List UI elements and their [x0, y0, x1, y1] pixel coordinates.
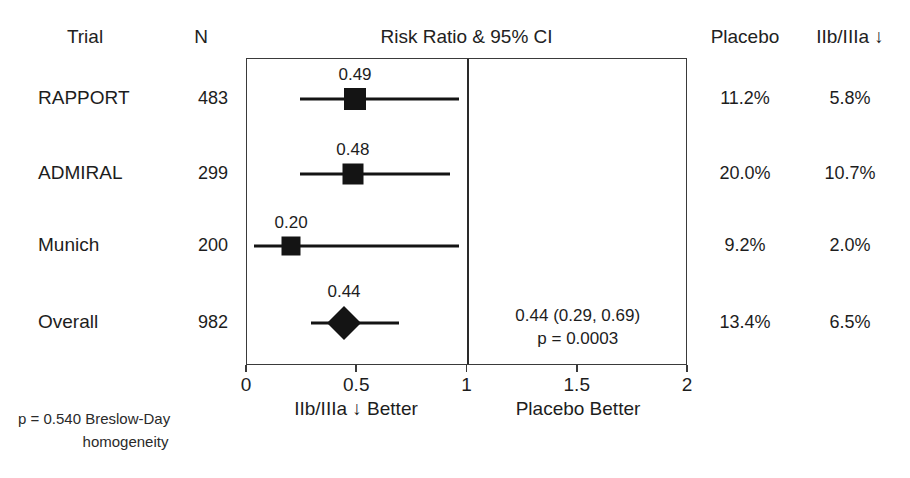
x-axis-tick-label: 2: [682, 374, 693, 396]
x-axis-tick-label: 0.5: [343, 374, 369, 396]
placebo-event-rate: 11.2%: [690, 88, 800, 109]
estimate-value-label: 0.48: [336, 140, 369, 160]
axis-caption-left: IIb/IIIa ↓ Better: [294, 398, 418, 420]
column-header-active-arm: IIb/IIIa ↓: [796, 26, 904, 48]
confidence-interval-line: [300, 173, 450, 176]
plot-area: 0.490.480.200.440.44 (0.29, 0.69)p = 0.0…: [246, 58, 687, 365]
trial-sample-size: 982: [160, 312, 228, 333]
forest-plot-figure: Trial N Risk Ratio & 95% CI Placebo IIb/…: [0, 0, 910, 478]
null-reference-line: [467, 59, 469, 364]
estimate-value-label: 0.44: [327, 282, 360, 302]
x-axis-tick: [576, 365, 578, 372]
trial-name: Munich: [38, 234, 99, 256]
trial-name: Overall: [38, 311, 98, 333]
overall-p-value: p = 0.0003: [515, 328, 640, 351]
active-event-rate: 2.0%: [796, 235, 904, 256]
active-event-rate: 6.5%: [796, 312, 904, 333]
x-axis-tick: [686, 365, 688, 372]
x-axis-tick: [245, 365, 247, 372]
overall-summary-text: 0.44 (0.29, 0.69)p = 0.0003: [515, 305, 640, 351]
column-header-trial: Trial: [0, 26, 170, 48]
placebo-event-rate: 9.2%: [690, 235, 800, 256]
point-estimate-square: [344, 88, 366, 110]
active-event-rate: 5.8%: [796, 88, 904, 109]
trial-sample-size: 200: [160, 235, 228, 256]
x-axis-tick: [466, 365, 468, 372]
point-estimate-square: [342, 164, 363, 185]
x-axis-tick-label: 1: [461, 374, 472, 396]
trial-sample-size: 299: [160, 163, 228, 184]
summary-diamond-marker: [327, 306, 361, 340]
placebo-event-rate: 20.0%: [690, 163, 800, 184]
x-axis-tick-label: 0: [241, 374, 252, 396]
column-header-plot-title: Risk Ratio & 95% CI: [246, 26, 687, 48]
estimate-value-label: 0.20: [275, 213, 308, 233]
axis-caption-right: Placebo Better: [516, 398, 641, 420]
column-header-placebo: Placebo: [690, 26, 800, 48]
point-estimate-square: [282, 237, 301, 256]
footnote-line-1: p = 0.540 Breslow-Day: [18, 408, 233, 431]
x-axis-tick: [355, 365, 357, 372]
confidence-interval-line: [300, 98, 459, 101]
active-event-rate: 10.7%: [796, 163, 904, 184]
overall-estimate-ci: 0.44 (0.29, 0.69): [515, 305, 640, 328]
x-axis-tick-label: 1.5: [564, 374, 590, 396]
estimate-value-label: 0.49: [338, 65, 371, 85]
placebo-event-rate: 13.4%: [690, 312, 800, 333]
trial-sample-size: 483: [160, 88, 228, 109]
trial-name: RAPPORT: [38, 87, 130, 109]
column-header-n: N: [170, 26, 232, 48]
trial-name: ADMIRAL: [38, 162, 122, 184]
footnote-line-2: homogeneity: [18, 431, 233, 454]
heterogeneity-footnote: p = 0.540 Breslow-Day homogeneity: [18, 408, 233, 453]
